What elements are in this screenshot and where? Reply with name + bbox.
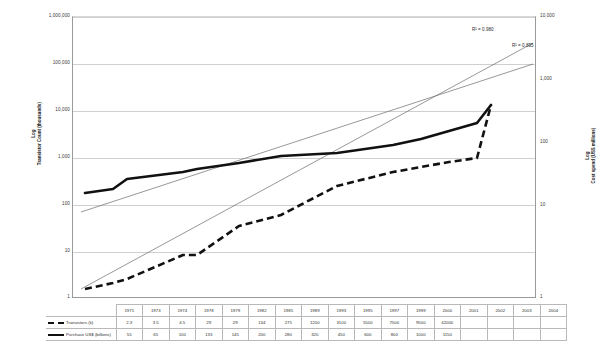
y2-axis-tick-10: 10 [540,203,545,208]
table-cell [461,329,488,341]
table-cell: 145 [222,329,249,341]
table-col-1997: 1997 [381,305,408,317]
table-cell: 55 [116,329,143,341]
series-line-purchase [85,105,491,193]
table-cell: 133 [196,329,223,341]
table-cell: 200 [249,329,276,341]
y2-axis-tick-1000: 1,000 [540,77,552,82]
table-cell [514,317,541,329]
chart-data-table: 1971 1973 1974 1978 1979 1982 1985 1989 … [46,304,567,341]
table-col-2000: 2000 [434,305,461,317]
table-cell: 4.5 [169,317,196,329]
table-cell: 1200 [302,317,329,329]
y-axis-tick-10: 10 [30,249,70,254]
y2-axis-title: Log Cost spend (US$ millions) [585,111,596,201]
table-cell: 3.5 [143,317,170,329]
y-axis-tick-100: 100 [30,202,70,207]
r-squared-label-transistors: R² = 0.980 [472,27,494,32]
legend-item-transistors: Transistors (k) [46,317,116,329]
table-col-1971: 1971 [116,305,143,317]
table-col-1973: 1973 [143,305,170,317]
y2-axis-title-line2: Cost spend (US$ millions) [591,111,597,201]
table-col-2003: 2003 [514,305,541,317]
table-cell [514,329,541,341]
table-header-row: 1971 1973 1974 1978 1979 1982 1985 1989 … [46,305,567,317]
table-cell: 100 [169,329,196,341]
table-cell: 29 [222,317,249,329]
series-line-transistors [85,105,491,289]
trendline-transistors [81,43,533,289]
y-axis-title-line2: Transistor Count (thousands) [37,89,43,179]
table-cell [487,329,514,341]
chart-plot-area [72,16,536,298]
table-cell [540,317,567,329]
table-col-1979: 1979 [222,305,249,317]
trendline-purchase [81,64,533,212]
table-cell: 1000 [408,329,435,341]
table-cell: 2.3 [116,317,143,329]
r-squared-label-purchase: R² = 0.895 [512,43,534,48]
table-col-2001: 2001 [461,305,488,317]
y2-axis-tick-100: 100 [540,140,548,145]
table-cell: 7500 [381,317,408,329]
y2-axis-tick-1: 1 [540,295,543,300]
table-cell: 450 [328,329,355,341]
legend-label-purchase: Purchase US$ (billions) [66,332,111,337]
table-col-1974: 1974 [169,305,196,317]
table-cell: 5500 [355,317,382,329]
table-cell [461,317,488,329]
table-col-1995: 1995 [355,305,382,317]
y2-axis-tick-10000: 10,000 [540,14,555,19]
table-cell: 3100 [328,317,355,329]
legend-label-transistors: Transistors (k) [66,320,93,325]
table-col-2002: 2002 [487,305,514,317]
chart-series-layer [73,17,537,299]
y-axis-title: Log Transistor Count (thousands) [31,89,42,179]
table-cell: 42000 [434,317,461,329]
y-axis-tick-1: 1 [30,295,70,300]
dashed-line-icon [48,322,64,324]
solid-line-icon [48,334,64,336]
table-cell: 320 [302,329,329,341]
table-cell: 65 [143,329,170,341]
table-cell: 9500 [408,317,435,329]
y-axis-tick-100000: 100,000 [30,61,70,66]
table-col-1993: 1993 [328,305,355,317]
table-col-1999: 1999 [408,305,435,317]
table-cell: 1150 [434,329,461,341]
table-cell: 600 [355,329,382,341]
table-col-1989: 1989 [302,305,329,317]
y-axis-tick-1000000: 1,000,000 [30,14,70,19]
table-cell [540,329,567,341]
table-cell: 280 [275,329,302,341]
table-col-2004: 2004 [540,305,567,317]
table-cell: 275 [275,317,302,329]
table-row: Purchase US$ (billions) 55 65 100 133 14… [46,329,567,341]
table-cell: 29 [196,317,223,329]
legend-item-purchase: Purchase US$ (billions) [46,329,116,341]
table-cell: 134 [249,317,276,329]
table-col-1982: 1982 [249,305,276,317]
table-cell [487,317,514,329]
table-corner-cell [46,305,116,317]
table-cell: 800 [381,329,408,341]
table-row: Transistors (k) 2.3 3.5 4.5 29 29 134 27… [46,317,567,329]
table-col-1985: 1985 [275,305,302,317]
table-col-1978: 1978 [196,305,223,317]
